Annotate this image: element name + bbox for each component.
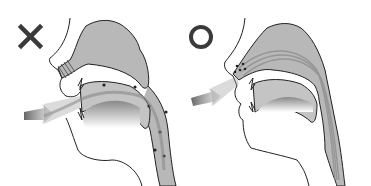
nose-breathing-illustration [185,0,371,186]
jaw-outline [66,118,142,186]
inhale-arrow-icon [191,76,239,106]
nasal-cavity [58,20,149,88]
circle-mark-icon [191,27,211,47]
inhale-arrow-icon [24,96,80,124]
panel-mouth-breathing: Mouth breathing [0,0,185,186]
cross-mark-icon [21,27,40,46]
mouth-breathing-illustration [0,0,185,186]
panel-nose-breathing: Nose breathing [185,0,371,186]
